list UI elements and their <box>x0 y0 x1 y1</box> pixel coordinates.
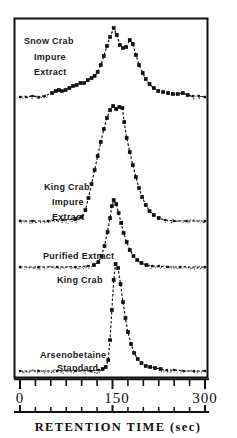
data-point <box>119 282 123 286</box>
noise-dot <box>47 97 48 98</box>
noise-dot <box>41 370 42 371</box>
noise-dot <box>54 267 55 268</box>
data-point <box>105 116 109 120</box>
noise-dot <box>150 268 151 269</box>
data-point <box>164 219 166 221</box>
data-point <box>140 195 144 199</box>
data-point <box>47 220 49 222</box>
noise-dot <box>22 98 23 99</box>
noise-dot <box>201 371 202 372</box>
data-point <box>19 96 21 98</box>
chromatogram-svg: Snow Crab Impure Extract King Crab Impur… <box>0 0 237 438</box>
data-point <box>108 108 112 112</box>
noise-dot <box>50 221 51 222</box>
noise-dot <box>44 372 45 373</box>
data-point <box>31 220 33 222</box>
data-point <box>75 83 79 87</box>
noise-dot <box>78 268 79 269</box>
data-point <box>93 74 97 78</box>
data-point <box>134 53 138 57</box>
data-point <box>166 369 168 371</box>
data-point <box>67 86 71 90</box>
data-point <box>134 175 138 179</box>
data-point <box>173 369 175 371</box>
noise-dot <box>193 98 194 99</box>
noise-dot <box>186 267 187 268</box>
data-point <box>185 220 187 222</box>
noise-dot <box>195 266 196 267</box>
noise-dot <box>23 221 24 222</box>
data-point <box>179 266 181 268</box>
data-point <box>204 96 206 98</box>
noise-dot <box>191 371 192 372</box>
data-point <box>186 93 190 97</box>
data-point <box>152 213 156 217</box>
data-point <box>182 370 184 372</box>
noise-dot <box>170 372 171 373</box>
noise-dot <box>174 372 175 373</box>
xtick-label-0: 0 <box>16 390 25 406</box>
noise-dot <box>187 222 188 223</box>
data-point <box>50 91 54 95</box>
noise-dot <box>177 372 178 373</box>
data-point <box>112 198 116 202</box>
noise-dot <box>44 223 45 224</box>
noise-dot <box>32 267 33 268</box>
noise-dot <box>37 373 38 374</box>
noise-dot <box>178 266 179 267</box>
noise-dot <box>32 370 33 371</box>
noise-dot <box>29 372 30 373</box>
noise-dot <box>190 219 191 220</box>
data-point <box>19 220 21 222</box>
noise-dot <box>197 372 198 373</box>
noise-dot <box>48 372 49 373</box>
noise-dot <box>161 267 162 268</box>
data-point <box>171 92 175 96</box>
label-king-crab-line3: Extract <box>52 212 85 222</box>
noise-dot <box>171 268 172 269</box>
data-point <box>102 54 106 58</box>
data-point <box>148 209 152 213</box>
noise-dot <box>182 220 183 221</box>
data-point <box>148 82 152 86</box>
label-purified-line1: Purified Extract <box>43 251 114 261</box>
data-point <box>116 266 120 270</box>
noise-dot <box>91 266 92 267</box>
data-point <box>140 261 144 265</box>
noise-dot <box>34 372 35 373</box>
data-point <box>125 240 129 244</box>
data-point <box>106 230 110 234</box>
noise-dot <box>174 268 175 269</box>
label-snow-crab-line2: Impure <box>34 52 66 62</box>
noise-dot <box>177 221 178 222</box>
data-point <box>56 266 58 268</box>
data-point <box>115 33 119 37</box>
data-point <box>79 81 83 85</box>
noise-dot <box>182 268 183 269</box>
data-point <box>106 358 110 362</box>
data-point <box>144 203 148 207</box>
noise-dot <box>167 221 168 222</box>
noise-dot <box>41 265 42 266</box>
noise-dot <box>23 372 24 373</box>
data-point <box>145 263 149 267</box>
noise-dot <box>41 97 42 98</box>
data-point <box>132 351 136 355</box>
noise-dot <box>67 223 68 224</box>
noise-dot <box>199 98 200 99</box>
data-point <box>19 370 21 372</box>
noise-dot <box>172 221 173 222</box>
noise-dot <box>196 96 197 97</box>
data-point <box>60 89 64 93</box>
noise-dot <box>60 268 61 269</box>
noise-dot <box>29 268 30 269</box>
data-point <box>122 231 126 235</box>
data-point <box>96 154 100 158</box>
noise-dot <box>27 97 28 98</box>
noise-dot <box>191 268 192 269</box>
data-point <box>126 330 130 334</box>
noise-dot <box>77 268 78 269</box>
noise-dot <box>153 267 154 268</box>
noise-dot <box>58 268 59 269</box>
noise-dot <box>195 371 196 372</box>
